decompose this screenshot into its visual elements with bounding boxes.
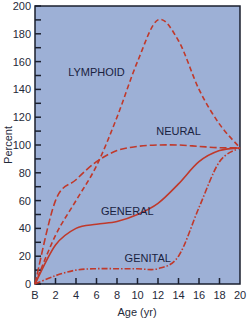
x-tick-label: 10 [131, 289, 143, 301]
y-tick-label: 160 [13, 56, 31, 68]
x-tick-label: 4 [73, 289, 79, 301]
x-tick-label: 6 [93, 289, 99, 301]
y-tick-label: 100 [13, 139, 31, 151]
x-axis-title: Age (yr) [117, 306, 156, 318]
y-tick-label: 60 [19, 195, 31, 207]
y-tick-label: 120 [13, 111, 31, 123]
y-axis-title: Percent [2, 126, 14, 164]
y-tick-label: 0 [25, 278, 31, 290]
x-tick-label: 8 [114, 289, 120, 301]
curve-label-lymphoid: LYMPHOID [68, 66, 125, 78]
plot-area [35, 6, 240, 284]
x-tick-label: 16 [193, 289, 205, 301]
growth-curves-chart: 020406080100120140160180200 B24681012141… [0, 0, 247, 325]
x-tick-label: 20 [234, 289, 246, 301]
y-tick-label: 200 [13, 0, 31, 12]
curve-label-general: GENERAL [101, 205, 154, 217]
x-tick-label: 14 [172, 289, 184, 301]
curve-label-genital: GENITAL [125, 252, 171, 264]
x-tick-label: 12 [152, 289, 164, 301]
y-tick-label: 180 [13, 28, 31, 40]
x-tick-label: 2 [52, 289, 58, 301]
y-tick-label: 40 [19, 222, 31, 234]
y-tick-label: 20 [19, 250, 31, 262]
x-tick-label: B [31, 289, 38, 301]
y-tick-label: 140 [13, 83, 31, 95]
curve-label-neural: NEURAL [156, 125, 201, 137]
x-tick-label: 18 [213, 289, 225, 301]
y-tick-label: 80 [19, 167, 31, 179]
